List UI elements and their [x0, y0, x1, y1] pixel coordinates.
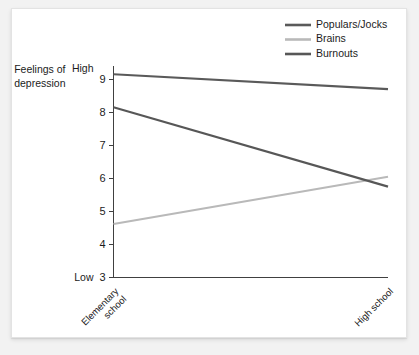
- y-axis-ticks: [109, 79, 114, 277]
- series-line-brains: [114, 177, 389, 224]
- y-tick-label-4: 4: [99, 238, 105, 250]
- chart-series: [114, 74, 389, 224]
- x-axis-category-labels: ElementaryschoolHigh school: [79, 285, 395, 335]
- figure-root: Populars/JocksBrainsBurnouts 3456789 Hig…: [0, 0, 419, 355]
- series-line-burnouts: [114, 107, 389, 186]
- y-tick-label-5: 5: [99, 205, 105, 217]
- line-chart: Populars/JocksBrainsBurnouts 3456789 Hig…: [0, 0, 419, 355]
- x-category-0: Elementaryschool: [79, 285, 129, 335]
- y-axis-low-label: Low: [74, 271, 94, 283]
- y-tick-label-7: 7: [99, 139, 105, 151]
- y-axis-high-label: High: [72, 62, 94, 74]
- legend-label-brains: Brains: [316, 32, 346, 44]
- y-axis-tick-labels: 3456789: [99, 73, 105, 283]
- axis-lines: [114, 66, 389, 278]
- x-category-1-line1: High school: [352, 286, 395, 329]
- y-tick-label-3: 3: [99, 271, 105, 283]
- y-tick-label-6: 6: [99, 172, 105, 184]
- y-tick-label-9: 9: [99, 73, 105, 85]
- y-axis-title: Feelings ofdepression: [14, 63, 66, 89]
- x-category-1: High school: [352, 286, 395, 329]
- chart-legend: Populars/JocksBrainsBurnouts: [285, 18, 387, 59]
- y-axis-bound-labels: HighLow: [72, 62, 94, 283]
- chart-axes: [114, 66, 389, 278]
- y-axis-title-line1: Feelings of: [14, 63, 65, 75]
- legend-label-burnouts: Burnouts: [316, 47, 358, 59]
- y-tick-label-8: 8: [99, 106, 105, 118]
- legend-label-populars-jocks: Populars/Jocks: [316, 18, 387, 30]
- y-axis-title-line2: depression: [14, 77, 66, 89]
- series-line-populars-jocks: [114, 74, 389, 89]
